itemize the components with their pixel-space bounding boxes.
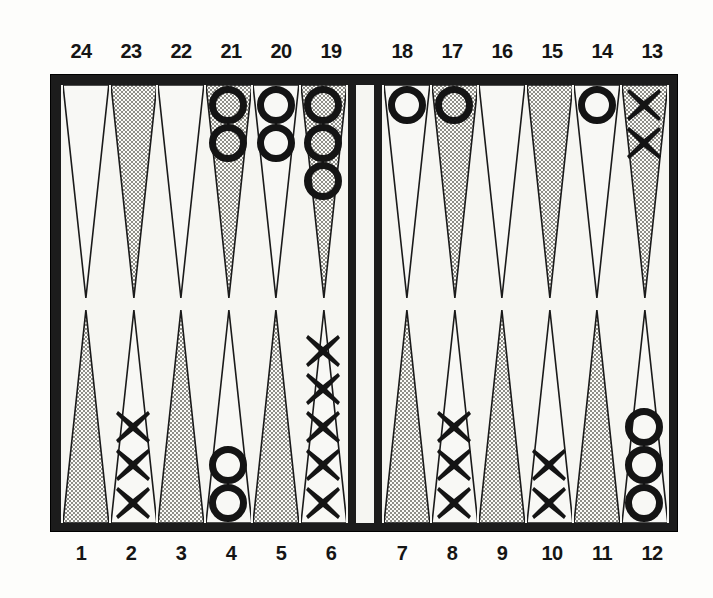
point-triangle [479,310,525,523]
checker-x-icon[interactable] [304,370,342,408]
checker-x-icon[interactable] [304,332,342,370]
board-point-1[interactable] [62,304,110,523]
checker-o-icon[interactable] [388,86,426,124]
board-point-17[interactable] [431,85,479,304]
checker-x-icon[interactable] [625,86,663,124]
board-point-16[interactable] [478,85,526,304]
point-number-label: 11 [577,542,627,565]
checker-stack[interactable] [300,86,348,200]
point-number-label: 10 [527,542,577,565]
top-left-point-numbers: 24 23 22 21 20 19 [56,36,356,66]
checker-o-icon[interactable] [578,86,616,124]
board-point-7[interactable] [383,304,431,523]
board-point-10[interactable] [526,304,574,523]
point-number-label: 12 [627,542,677,565]
point-number-label: 3 [156,542,206,565]
point-triangle [63,310,109,523]
point-triangle [111,85,157,298]
board-point-9[interactable] [478,304,526,523]
point-triangle [479,85,525,298]
point-number-label: 15 [527,40,577,63]
checker-x-icon[interactable] [114,484,152,522]
checker-o-icon[interactable] [304,86,342,124]
checker-x-icon[interactable] [625,124,663,162]
checker-x-icon[interactable] [304,484,342,522]
point-number-label: 1 [56,542,106,565]
point-number-label: 6 [306,542,356,565]
top-left-number-group: 24 23 22 21 20 19 [56,40,356,63]
checker-x-icon[interactable] [435,446,473,484]
checker-x-icon[interactable] [435,484,473,522]
board-point-22[interactable] [157,85,205,304]
bottom-right-point-numbers: 7 8 9 10 11 12 [377,538,677,568]
point-number-label: 13 [627,40,677,63]
checker-stack[interactable] [431,408,479,522]
checker-o-icon[interactable] [625,484,663,522]
bottom-left-number-group: 1 2 3 4 5 6 [56,542,356,565]
checker-x-icon[interactable] [304,408,342,446]
checker-x-icon[interactable] [304,446,342,484]
checker-x-icon[interactable] [435,408,473,446]
checker-o-icon[interactable] [625,408,663,446]
board-point-14[interactable] [573,85,621,304]
checker-stack[interactable] [205,446,253,522]
top-right-number-group: 18 17 16 15 14 13 [377,40,677,63]
checker-o-icon[interactable] [435,86,473,124]
checker-o-icon[interactable] [209,86,247,124]
checker-o-icon[interactable] [257,124,295,162]
center-bar-inner [356,85,374,523]
checker-o-icon[interactable] [209,484,247,522]
checker-stack[interactable] [621,408,669,522]
center-bar [348,85,382,523]
quadrant-top-right [383,85,668,304]
point-number-label: 9 [477,542,527,565]
point-number-label: 17 [427,40,477,63]
checker-x-icon[interactable] [530,484,568,522]
checker-stack[interactable] [300,332,348,522]
board-point-18[interactable] [383,85,431,304]
bottom-left-point-numbers: 1 2 3 4 5 6 [56,538,356,568]
checker-o-icon[interactable] [209,124,247,162]
board-point-12[interactable] [621,304,669,523]
backgammon-board-figure: 24 23 22 21 20 19 18 17 16 15 14 13 [0,0,713,598]
checker-x-icon[interactable] [530,446,568,484]
checker-stack[interactable] [431,86,479,124]
board-point-6[interactable] [300,304,348,523]
board-point-19[interactable] [300,85,348,304]
bottom-right-number-group: 7 8 9 10 11 12 [377,542,677,565]
board-point-21[interactable] [205,85,253,304]
board-point-24[interactable] [62,85,110,304]
quadrant-top-left [62,85,347,304]
checker-o-icon[interactable] [209,446,247,484]
board-point-3[interactable] [157,304,205,523]
board-point-5[interactable] [252,304,300,523]
checker-o-icon[interactable] [304,162,342,200]
checker-o-icon[interactable] [304,124,342,162]
checker-stack[interactable] [110,408,158,522]
checker-stack[interactable] [252,86,300,162]
checker-stack[interactable] [383,86,431,124]
point-triangle [158,310,204,523]
board-point-11[interactable] [573,304,621,523]
board-point-15[interactable] [526,85,574,304]
checker-o-icon[interactable] [257,86,295,124]
board-point-13[interactable] [621,85,669,304]
point-number-label: 14 [577,40,627,63]
checker-x-icon[interactable] [114,408,152,446]
point-number-label: 16 [477,40,527,63]
point-number-label: 20 [256,40,306,63]
board-point-4[interactable] [205,304,253,523]
board-point-20[interactable] [252,85,300,304]
checker-o-icon[interactable] [625,446,663,484]
point-number-label: 4 [206,542,256,565]
board-point-8[interactable] [431,304,479,523]
quadrant-bottom-right [383,304,668,523]
checker-stack[interactable] [621,86,669,162]
checker-x-icon[interactable] [114,446,152,484]
checker-stack[interactable] [526,446,574,522]
board-point-23[interactable] [110,85,158,304]
point-number-label: 24 [56,40,106,63]
checker-stack[interactable] [205,86,253,162]
checker-stack[interactable] [573,86,621,124]
board-point-2[interactable] [110,304,158,523]
